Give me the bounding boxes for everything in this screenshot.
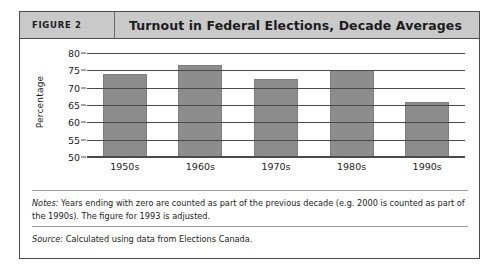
- x-tick-label: 1960s: [186, 161, 215, 172]
- bar-1960s: [178, 65, 222, 157]
- gridline: [87, 88, 465, 89]
- y-axis-title: Percentage: [35, 57, 45, 147]
- y-tick-mark: [81, 87, 86, 88]
- notes-lead: Notes:: [32, 198, 58, 208]
- gridline: [87, 53, 465, 54]
- x-axis-labels: 1950s1960s1970s1980s1990s: [87, 161, 465, 177]
- gridline: [87, 140, 465, 141]
- y-tick-label: 80: [68, 48, 80, 59]
- source-lead: Source:: [32, 234, 63, 244]
- source-text: Calculated using data from Elections Can…: [63, 234, 252, 244]
- y-tick-mark: [81, 70, 86, 71]
- y-tick-mark: [81, 105, 86, 106]
- y-tick-label: 65: [68, 100, 80, 111]
- figure-title: Turnout in Federal Elections, Decade Ave…: [129, 18, 462, 33]
- figure-number-label: FIGURE 2: [32, 20, 82, 30]
- y-tick-label: 60: [68, 117, 80, 128]
- gridline: [87, 157, 465, 158]
- x-tick-label: 1950s: [110, 161, 139, 172]
- y-tick-mark: [81, 122, 86, 123]
- notes-divider: [32, 190, 468, 191]
- y-tick-mark: [81, 53, 86, 54]
- gridline: [87, 105, 465, 106]
- notes-block: Notes: Years ending with zero are counte…: [32, 197, 468, 222]
- y-tick-label: 75: [68, 65, 80, 76]
- y-tick-label: 55: [68, 134, 80, 145]
- figure-header: FIGURE 2 Turnout in Federal Elections, D…: [20, 12, 479, 39]
- figure-title-cell: Turnout in Federal Elections, Decade Ave…: [115, 12, 479, 38]
- y-tick-mark: [81, 157, 86, 158]
- bar-chart: Percentage 50556065707580 1950s1960s1970…: [20, 45, 481, 185]
- figure-container: FIGURE 2 Turnout in Federal Elections, D…: [19, 11, 480, 259]
- x-tick-label: 1970s: [261, 161, 290, 172]
- x-tick-label: 1980s: [337, 161, 366, 172]
- figure-number-cell: FIGURE 2: [20, 12, 115, 38]
- gridline: [87, 122, 465, 123]
- figure-screenshot: FIGURE 2 Turnout in Federal Elections, D…: [0, 0, 500, 280]
- bar-1970s: [254, 79, 298, 157]
- x-tick-label: 1990s: [413, 161, 442, 172]
- source-divider: [32, 226, 468, 227]
- gridline: [87, 70, 465, 71]
- bar-1990s: [405, 102, 449, 157]
- y-tick-mark: [81, 139, 86, 140]
- bar-1980s: [330, 70, 374, 157]
- y-tick-label: 50: [68, 152, 80, 163]
- y-tick-label: 70: [68, 82, 80, 93]
- plot-area: 50556065707580: [87, 53, 465, 157]
- figure-body: Percentage 50556065707580 1950s1960s1970…: [20, 39, 479, 258]
- bar-1950s: [103, 74, 147, 157]
- source-block: Source: Calculated using data from Elect…: [32, 233, 468, 246]
- notes-text: Years ending with zero are counted as pa…: [32, 198, 465, 221]
